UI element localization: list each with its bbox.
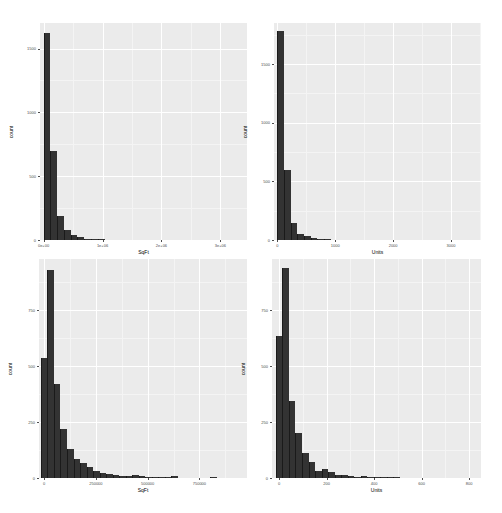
histogram-bar <box>277 31 284 240</box>
grid-line-minor <box>422 23 423 240</box>
grid-line-minor <box>398 259 399 478</box>
x-tick-label: 400 <box>359 481 389 486</box>
histogram-bar <box>84 239 91 240</box>
y-tick-mark <box>270 422 272 423</box>
y-tick-label: 1000 <box>12 110 36 115</box>
x-tick-mark <box>422 478 423 480</box>
y-tick-label: 500 <box>12 174 36 179</box>
plot-panel <box>40 23 247 240</box>
grid-line-minor <box>480 23 481 240</box>
x-tick-mark <box>44 478 45 480</box>
x-tick-mark <box>277 240 278 242</box>
y-axis-title: count <box>7 354 13 384</box>
x-axis-title: SqFt <box>113 487 173 493</box>
grid-line-minor <box>306 23 307 240</box>
x-tick-label: 1000 <box>320 243 350 248</box>
grid-line-major <box>274 64 481 65</box>
y-tick-mark <box>37 422 39 423</box>
x-tick-mark <box>96 478 97 480</box>
x-tick-label: 250000 <box>81 481 111 486</box>
y-tick-label: 1000 <box>246 120 270 125</box>
grid-line-major <box>39 310 247 311</box>
grid-line-major <box>274 181 481 182</box>
y-axis-title: count <box>240 354 246 384</box>
y-tick-label: 250 <box>11 420 35 425</box>
grid-line-minor <box>272 450 481 451</box>
histogram-bar <box>297 234 304 240</box>
y-tick-mark <box>272 64 274 65</box>
x-tick-label: 0 <box>264 481 294 486</box>
grid-line-major <box>103 23 104 240</box>
y-tick-label: 0 <box>12 238 36 243</box>
grid-line-major <box>40 176 247 177</box>
grid-line-major <box>272 310 481 311</box>
grid-line-major <box>422 259 423 478</box>
y-tick-label: 750 <box>244 308 268 313</box>
grid-line-minor <box>445 259 446 478</box>
histogram-bar <box>80 463 87 478</box>
grid-line-minor <box>272 282 481 283</box>
grid-line-minor <box>40 208 247 209</box>
histogram-bar <box>158 477 165 478</box>
x-tick-label: 500000 <box>133 481 163 486</box>
plot-panel <box>274 23 481 240</box>
grid-line-minor <box>174 259 175 478</box>
x-tick-mark <box>335 240 336 242</box>
x-axis-title: SqFt <box>114 249 174 255</box>
y-tick-label: 0 <box>11 476 35 481</box>
histogram-bar <box>284 170 291 240</box>
grid-line-major <box>220 23 221 240</box>
grid-line-minor <box>350 259 351 478</box>
histogram-bar <box>324 239 331 240</box>
grid-line-major <box>148 259 149 478</box>
histogram-bar <box>106 474 113 478</box>
x-tick-mark <box>279 478 280 480</box>
histogram-bar <box>132 475 139 478</box>
x-tick-label: 2000 <box>378 243 408 248</box>
y-tick-mark <box>38 176 40 177</box>
histogram-bar <box>47 270 54 478</box>
grid-line-minor <box>364 23 365 240</box>
x-tick-mark <box>44 240 45 242</box>
x-tick-mark <box>469 478 470 480</box>
y-tick-label: 250 <box>244 420 268 425</box>
y-axis-title: count <box>242 117 248 147</box>
grid-line-major <box>335 23 336 240</box>
x-tick-label: 600 <box>407 481 437 486</box>
x-tick-label: 2e+06 <box>146 243 176 248</box>
y-tick-mark <box>38 112 40 113</box>
histogram-bar <box>317 239 324 240</box>
x-tick-label: 200 <box>312 481 342 486</box>
grid-line-major <box>327 259 328 478</box>
histogram-bar <box>50 151 57 240</box>
y-tick-mark <box>270 366 272 367</box>
x-tick-label: 800 <box>454 481 484 486</box>
grid-line-major <box>40 112 247 113</box>
grid-line-major <box>393 23 394 240</box>
grid-line-minor <box>39 338 247 339</box>
histogram-bar <box>98 239 105 240</box>
plot-panel <box>39 259 247 478</box>
grid-line-major <box>451 23 452 240</box>
grid-line-minor <box>272 394 481 395</box>
grid-line-minor <box>225 259 226 478</box>
x-tick-mark <box>199 478 200 480</box>
y-tick-mark <box>270 478 272 479</box>
x-tick-mark <box>161 240 162 242</box>
y-tick-mark <box>38 49 40 50</box>
grid-line-major <box>272 366 481 367</box>
grid-line-major <box>469 259 470 478</box>
grid-line-minor <box>40 80 247 81</box>
grid-line-minor <box>40 144 247 145</box>
histogram-bar <box>291 223 298 240</box>
x-tick-mark <box>220 240 221 242</box>
x-tick-mark <box>451 240 452 242</box>
grid-line-minor <box>122 259 123 478</box>
histogram-bar <box>77 237 84 240</box>
x-tick-mark <box>148 478 149 480</box>
y-tick-mark <box>272 123 274 124</box>
histogram-bar <box>44 33 51 240</box>
y-tick-mark <box>37 310 39 311</box>
grid-line-major <box>40 49 247 50</box>
histogram-bar <box>71 235 78 240</box>
